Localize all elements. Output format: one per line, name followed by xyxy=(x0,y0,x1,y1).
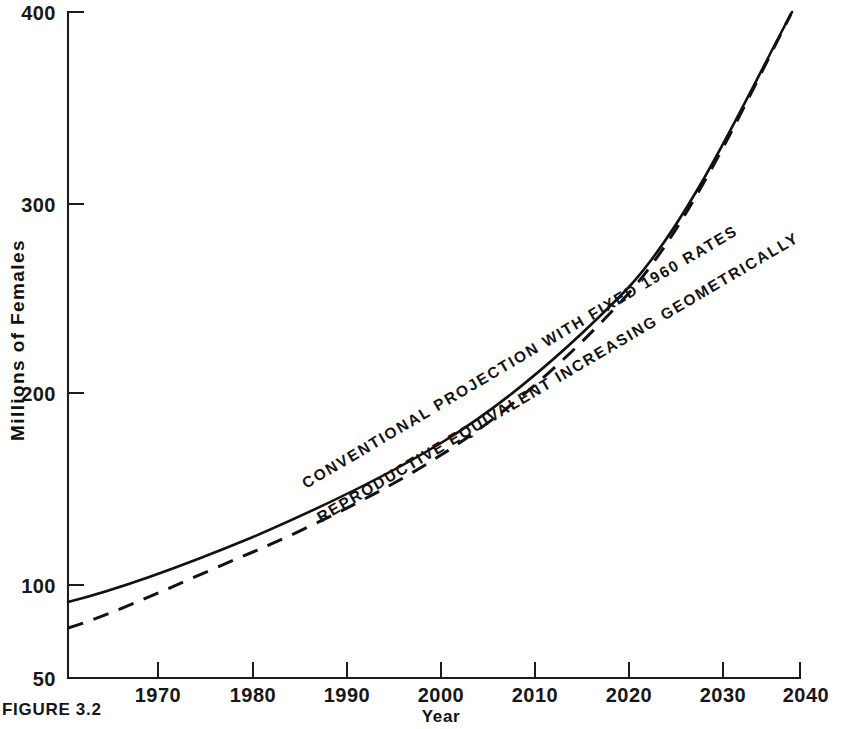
x-tick-label-1970: 1970 xyxy=(135,684,182,706)
y-tick-label-400: 400 xyxy=(21,2,56,24)
series-annotations-group: CONVENTIONAL PROJECTION WITH FIXED 1960 … xyxy=(299,222,802,526)
x-tick-label-1990: 1990 xyxy=(324,684,371,706)
axes-group xyxy=(68,12,800,678)
figure-caption: FIGURE 3.2 xyxy=(2,700,102,720)
x-tick-label-2030: 2030 xyxy=(700,684,747,706)
x-axis-title: Year xyxy=(422,707,460,726)
x-tick-label-2000: 2000 xyxy=(418,684,465,706)
series-line-reproductive-equivalent xyxy=(68,14,791,628)
figure-container: 400 300 200 100 50 1970 1980 1990 2000 2… xyxy=(0,0,848,729)
series-label-reproductive-equivalent: REPRODUCTIVE EQUIVALENT INCREASING GEOME… xyxy=(314,229,802,526)
x-tick-label-2020: 2020 xyxy=(606,684,653,706)
series-group xyxy=(68,12,792,628)
series-label-conventional-projection: CONVENTIONAL PROJECTION WITH FIXED 1960 … xyxy=(299,222,741,492)
y-tick-label-300: 300 xyxy=(21,194,56,216)
x-ticks-group: 1970 1980 1990 2000 2010 2020 2030 2040 xyxy=(135,662,830,706)
y-ticks-group: 400 300 200 100 50 xyxy=(21,2,84,690)
x-tick-label-1980: 1980 xyxy=(230,684,277,706)
y-tick-label-100: 100 xyxy=(21,575,56,597)
x-tick-label-2040: 2040 xyxy=(783,684,830,706)
x-tick-label-2010: 2010 xyxy=(512,684,559,706)
y-tick-label-50: 50 xyxy=(33,668,56,690)
y-axis-title: Millions of Females xyxy=(7,239,28,441)
line-chart: 400 300 200 100 50 1970 1980 1990 2000 2… xyxy=(0,0,848,729)
